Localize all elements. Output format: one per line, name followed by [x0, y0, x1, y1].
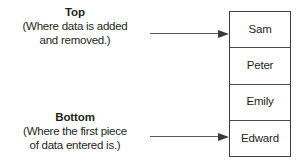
arrow-shaft [150, 33, 222, 34]
annotation-top: Top (Where data is added and removed.) [0, 5, 150, 47]
annotation-bottom-title: Bottom [0, 110, 150, 124]
stack-cell: Emily [230, 85, 290, 121]
stack-diagram: Top (Where data is added and removed.) B… [0, 0, 305, 168]
annotation-bottom: Bottom (Where the first piece of data en… [0, 110, 150, 152]
annotation-top-description-line-1: (Where data is added [0, 19, 150, 33]
annotation-bottom-description-line-2: of data entered is.) [0, 138, 150, 152]
stack-cell: Edward [230, 121, 290, 156]
arrow-head [218, 133, 229, 141]
arrow-right-icon-bottom [150, 132, 230, 142]
arrow-shaft [150, 136, 222, 137]
stack-cell: Sam [230, 12, 290, 48]
arrow-right-icon-top [150, 29, 230, 39]
annotation-bottom-description-line-1: (Where the first piece [0, 124, 150, 138]
annotation-top-description-line-2: and removed.) [0, 33, 150, 47]
stack-cell: Peter [230, 48, 290, 84]
stack-container: Sam Peter Emily Edward [229, 11, 291, 157]
arrow-head [218, 30, 229, 38]
annotation-top-title: Top [0, 5, 150, 19]
